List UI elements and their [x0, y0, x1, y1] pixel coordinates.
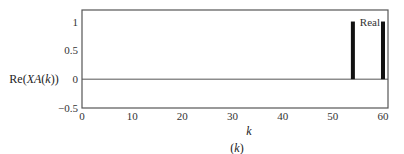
- x-tick-label: 0: [79, 110, 85, 122]
- y-axis-label: Re(XA(k)): [9, 72, 58, 86]
- legend-label: Real: [360, 16, 380, 28]
- chart: −0.500.510102030405060RealRe(XA(k))k(k): [0, 0, 404, 154]
- x-tick-label: 40: [277, 110, 289, 122]
- data-bar: [381, 22, 385, 80]
- x-tick-label: 30: [227, 110, 239, 122]
- y-tick-label: −0.5: [58, 102, 78, 114]
- plot-area: −0.500.510102030405060RealRe(XA(k))k(k): [9, 10, 389, 154]
- x-axis-label: k: [246, 124, 252, 138]
- x-tick-label: 20: [177, 110, 189, 122]
- plot-frame: [82, 10, 388, 108]
- figure-caption: (k): [230, 141, 243, 154]
- y-tick-label: 1: [73, 16, 79, 28]
- x-tick-label: 50: [327, 110, 339, 122]
- y-tick-label: 0.5: [64, 44, 78, 56]
- y-tick-label: 0: [73, 73, 79, 85]
- x-tick-label: 60: [377, 110, 389, 122]
- x-tick-label: 10: [127, 110, 139, 122]
- data-bar: [351, 22, 355, 80]
